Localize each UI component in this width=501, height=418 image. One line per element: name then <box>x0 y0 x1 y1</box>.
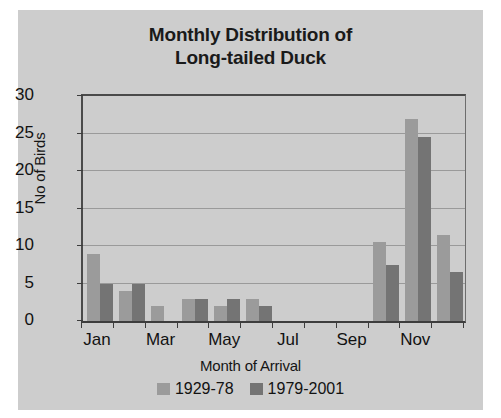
legend-label: 1979-2001 <box>268 380 345 398</box>
x-tick-mark <box>113 321 114 328</box>
y-tick-mark <box>77 133 83 134</box>
bar <box>151 306 164 321</box>
legend-swatch-icon <box>157 383 170 395</box>
chart-legend: 1929-781979-2001 <box>18 380 483 398</box>
bar <box>100 284 113 322</box>
bar <box>227 299 240 322</box>
bar <box>246 299 259 322</box>
bar <box>132 284 145 322</box>
x-tick-mark <box>304 321 305 328</box>
y-tick-label: 10 <box>0 235 34 255</box>
bar-group <box>87 96 113 321</box>
x-tick-mark <box>336 321 337 328</box>
y-tick-label: 25 <box>0 123 34 143</box>
x-tick-mark <box>177 321 178 328</box>
x-tick-label: Sep <box>322 330 382 350</box>
x-tick-mark <box>399 321 400 328</box>
bar <box>405 119 418 322</box>
x-tick-mark <box>463 321 464 328</box>
x-tick-mark <box>272 321 273 328</box>
bar <box>182 299 195 322</box>
bar <box>450 272 463 321</box>
bar-group <box>119 96 145 321</box>
legend-item: 1979-2001 <box>250 380 345 398</box>
x-tick-label: Nov <box>385 330 445 350</box>
bar <box>386 265 399 321</box>
bar-group <box>405 96 431 321</box>
plot-area <box>81 94 466 323</box>
y-tick-label: 20 <box>0 160 34 180</box>
bar <box>195 299 208 322</box>
bar <box>437 235 450 321</box>
bar-group <box>278 96 304 321</box>
x-tick-mark <box>208 321 209 328</box>
bar <box>87 254 100 322</box>
bar <box>119 291 132 321</box>
x-tick-label: Jul <box>258 330 318 350</box>
y-tick-label: 30 <box>0 85 34 105</box>
x-tick-mark <box>145 321 146 328</box>
y-tick-mark <box>77 245 83 246</box>
bar <box>214 306 227 321</box>
bar-group <box>214 96 240 321</box>
chart-title-line-2: Long-tailed Duck <box>18 46 483 69</box>
y-tick-mark <box>77 170 83 171</box>
x-tick-mark <box>368 321 369 328</box>
y-tick-mark <box>77 283 83 284</box>
legend-swatch-icon <box>250 383 263 395</box>
x-axis-title: Month of Arrival <box>18 357 483 374</box>
x-tick-label: Jan <box>67 330 127 350</box>
chart-title-line-1: Monthly Distribution of <box>149 24 352 45</box>
bar-group <box>437 96 463 321</box>
x-tick-label: May <box>194 330 254 350</box>
y-tick-mark <box>77 208 83 209</box>
x-axis: JanMarMayJulSepNov <box>81 321 465 357</box>
legend-item: 1929-78 <box>157 380 234 398</box>
chart-figure: Monthly Distribution of Long-tailed Duck… <box>18 10 483 410</box>
legend-label: 1929-78 <box>175 380 234 398</box>
y-tick-label: 5 <box>0 273 34 293</box>
bar-group <box>310 96 336 321</box>
bar <box>259 306 272 321</box>
bar-group <box>373 96 399 321</box>
x-tick-mark <box>431 321 432 328</box>
bar <box>418 137 431 321</box>
x-tick-label: Mar <box>131 330 191 350</box>
bar-group <box>182 96 208 321</box>
y-tick-label: 0 <box>0 310 34 330</box>
y-tick-mark <box>77 95 83 96</box>
bar-group <box>151 96 177 321</box>
x-tick-mark <box>81 321 82 328</box>
bar-group <box>246 96 272 321</box>
x-tick-mark <box>240 321 241 328</box>
y-tick-label: 15 <box>0 198 34 218</box>
chart-title: Monthly Distribution of Long-tailed Duck <box>18 23 483 69</box>
bar <box>373 242 386 321</box>
bar-group <box>342 96 368 321</box>
